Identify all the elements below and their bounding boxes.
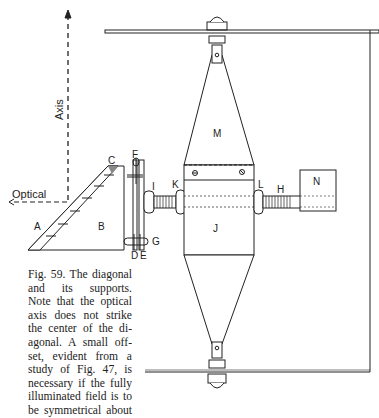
caption-line: agonal. A small off-	[28, 336, 132, 350]
figure-caption: Fig. 59. The diagonal and its supports. …	[28, 268, 132, 418]
part-label-i: I	[152, 181, 155, 192]
hub-block-j	[184, 165, 254, 255]
caption-line: illuminated field is to	[28, 390, 132, 404]
bottom-support-bar	[145, 370, 370, 372]
caption-line: the center of the di-	[28, 322, 132, 336]
part-label-h: H	[277, 184, 284, 195]
part-label-c: C	[108, 155, 115, 166]
part-label-b: B	[98, 221, 105, 232]
part-label-e: E	[140, 250, 147, 261]
part-label-g: G	[152, 236, 160, 247]
spider-lower-vane	[184, 255, 254, 358]
bottom-nuts	[208, 360, 226, 388]
top-nuts	[207, 17, 227, 43]
top-support-bar	[105, 30, 379, 33]
caption-line: be symmetrical about	[28, 404, 132, 418]
optical-axis-vertical	[65, 10, 71, 200]
part-label-l: L	[258, 179, 264, 190]
nut-i	[144, 191, 154, 213]
axis-label-horizontal: Optical	[12, 188, 46, 200]
caption-line: Note that the optical	[28, 295, 132, 309]
part-label-a: A	[34, 221, 41, 232]
part-label-k: K	[172, 179, 179, 190]
spider-upper-vane-m	[184, 45, 254, 165]
part-label-j: J	[213, 223, 218, 234]
part-label-n: N	[313, 176, 320, 187]
nut-l	[254, 190, 263, 214]
caption-line: necessary if the fully	[28, 377, 132, 391]
diagonal-mirror	[28, 166, 124, 250]
part-label-m: M	[213, 128, 221, 139]
caption-line: study of Fig. 47, is	[28, 363, 132, 377]
part-label-d: D	[131, 250, 138, 261]
caption-line: axis does not strike	[28, 309, 132, 323]
caption-line: Fig. 59. The diagonal	[28, 268, 132, 282]
caption-line: and its supports.	[28, 282, 132, 296]
part-label-f: F	[132, 149, 138, 160]
caption-line: set, evident from a	[28, 350, 132, 364]
threaded-rod-left	[154, 190, 185, 214]
axis-label-vertical: Axis	[53, 99, 65, 120]
